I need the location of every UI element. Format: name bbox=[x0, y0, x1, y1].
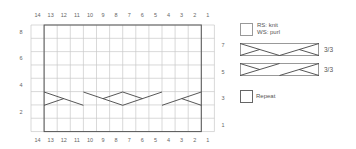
legend-cable-right bbox=[240, 43, 319, 56]
row-label: 3 bbox=[221, 95, 224, 101]
legend-cable-left bbox=[240, 63, 319, 76]
legend-cable-right-ratio: 3/3 bbox=[324, 46, 333, 53]
column-label: 11 bbox=[74, 12, 80, 18]
left-row-labels: 8642 bbox=[19, 29, 22, 115]
column-label: 6 bbox=[141, 12, 144, 18]
knit-purl-symbol bbox=[240, 23, 253, 36]
column-label: 3 bbox=[180, 137, 183, 143]
row-label: 1 bbox=[221, 122, 224, 128]
chart-grid bbox=[31, 25, 214, 132]
repeat-symbol bbox=[240, 90, 253, 103]
column-label: 14 bbox=[34, 12, 40, 18]
legend-repeat: Repeat bbox=[240, 90, 275, 103]
right-row-labels: 7531 bbox=[221, 42, 224, 128]
knitting-chart: 1413121110987654321 1413121110987654321 … bbox=[0, 0, 230, 149]
column-label: 4 bbox=[167, 137, 170, 143]
column-label: 6 bbox=[141, 137, 144, 143]
column-label: 5 bbox=[154, 12, 157, 18]
column-label: 2 bbox=[193, 137, 196, 143]
row-label: 6 bbox=[19, 55, 22, 61]
row-label: 7 bbox=[221, 42, 224, 48]
column-label: 7 bbox=[128, 12, 131, 18]
column-label: 1 bbox=[206, 137, 209, 143]
top-column-labels: 1413121110987654321 bbox=[34, 12, 209, 18]
row-label: 5 bbox=[221, 69, 224, 75]
legend-repeat-label: Repeat bbox=[256, 93, 275, 100]
column-label: 8 bbox=[115, 12, 118, 18]
cable-a-line-2 bbox=[44, 99, 64, 106]
column-label: 3 bbox=[180, 12, 183, 18]
legend-ws-label: WS: purl bbox=[257, 29, 280, 36]
cable-left-cross-icon bbox=[240, 63, 319, 76]
row-label: 4 bbox=[19, 82, 22, 88]
column-label: 1 bbox=[206, 12, 209, 18]
column-label: 12 bbox=[61, 12, 67, 18]
column-label: 5 bbox=[154, 137, 157, 143]
column-label: 8 bbox=[115, 137, 118, 143]
column-label: 12 bbox=[61, 137, 67, 143]
column-label: 7 bbox=[128, 137, 131, 143]
column-label: 13 bbox=[48, 137, 54, 143]
column-label: 14 bbox=[34, 137, 40, 143]
bottom-column-labels: 1413121110987654321 bbox=[34, 137, 209, 143]
row-label: 2 bbox=[19, 109, 22, 115]
legend-rs-label: RS: knit bbox=[257, 22, 280, 29]
legend-cable-left-ratio: 3/3 bbox=[324, 66, 333, 73]
column-label: 11 bbox=[74, 137, 80, 143]
column-label: 9 bbox=[102, 137, 105, 143]
column-label: 4 bbox=[167, 12, 170, 18]
legend-knit-purl: RS: knit WS: purl bbox=[240, 22, 280, 36]
column-label: 10 bbox=[87, 137, 93, 143]
column-label: 2 bbox=[193, 12, 196, 18]
column-label: 9 bbox=[102, 12, 105, 18]
column-label: 13 bbox=[48, 12, 54, 18]
cable-c-line-2 bbox=[182, 99, 202, 106]
cable-right-cross-icon bbox=[240, 43, 319, 56]
column-label: 10 bbox=[87, 12, 93, 18]
row-label: 8 bbox=[19, 29, 22, 35]
